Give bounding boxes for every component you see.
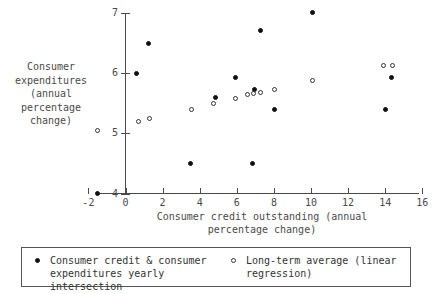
data-point-intersection: [272, 107, 277, 112]
data-point-intersection: [233, 75, 238, 80]
data-point-intersection: [310, 10, 315, 15]
data-point-intersection: [188, 161, 193, 166]
data-point-long-term-average: [95, 128, 100, 133]
data-point-long-term-average: [233, 96, 238, 101]
data-point-long-term-average: [251, 91, 256, 96]
data-point-long-term-average: [189, 107, 194, 112]
x-axis-tick: [200, 188, 201, 194]
data-point-intersection: [258, 28, 263, 33]
x-axis-title: Consumer credit outstanding (annualperce…: [112, 210, 412, 236]
legend-entry-long-term-average: Long-term average (linearregression): [246, 254, 406, 280]
data-point-intersection: [213, 95, 218, 100]
y-axis-tick: [121, 194, 130, 195]
x-axis-tick: [422, 188, 423, 194]
chart-page: -20246810121416 7654 Consumerexpenditure…: [0, 0, 434, 294]
data-point-intersection: [146, 41, 151, 46]
x-axis-tick-label: 0: [115, 197, 137, 208]
y-axis-tick-label: 5: [101, 127, 118, 138]
x-axis-tick-label: -2: [77, 197, 99, 208]
x-axis-tick-label: 2: [152, 197, 174, 208]
data-point-long-term-average: [136, 119, 141, 124]
x-axis-tick-label: 16: [411, 197, 433, 208]
x-axis-tick: [348, 188, 349, 194]
legend-marker-open-circle-icon: [231, 258, 236, 263]
y-axis-tick: [121, 13, 130, 14]
x-axis-tick: [385, 188, 386, 194]
legend-entry-consumer-credit: Consumer credit & consumerexpenditures y…: [50, 254, 240, 293]
x-axis-tick: [163, 188, 164, 194]
y-axis-tick-label: 7: [101, 7, 118, 18]
data-point-long-term-average: [390, 63, 395, 68]
x-axis-tick-label: 4: [189, 197, 211, 208]
x-axis-tick: [88, 188, 89, 194]
data-point-long-term-average: [310, 78, 315, 83]
x-axis-tick-label: 8: [263, 197, 285, 208]
y-axis-tick: [121, 133, 130, 134]
y-axis-tick: [121, 73, 130, 74]
data-point-long-term-average: [272, 87, 277, 92]
data-point-intersection: [250, 161, 255, 166]
data-point-intersection: [389, 75, 394, 80]
x-axis-tick-label: 14: [374, 197, 396, 208]
x-axis-tick-label: 10: [300, 197, 322, 208]
scatter-plot-area: -20246810121416 7654 Consumerexpenditure…: [0, 0, 434, 240]
data-point-long-term-average: [211, 101, 216, 106]
x-axis-tick-label: 12: [337, 197, 359, 208]
data-point-long-term-average: [245, 92, 250, 97]
data-point-intersection: [95, 191, 100, 196]
data-point-long-term-average: [258, 90, 263, 95]
data-point-long-term-average: [381, 63, 386, 68]
y-axis-tick-label: 6: [101, 67, 118, 78]
y-axis-title: Consumerexpenditures(annualpercentagecha…: [4, 60, 98, 128]
legend-marker-filled-circle-icon: [35, 258, 40, 263]
data-point-intersection: [383, 107, 388, 112]
y-axis-tick-label: 4: [101, 188, 118, 199]
data-point-intersection: [134, 71, 139, 76]
x-axis-tick: [237, 188, 238, 194]
x-axis-tick: [311, 188, 312, 194]
legend: Consumer credit & consumerexpenditures y…: [21, 247, 411, 287]
x-axis-tick: [274, 188, 275, 194]
x-axis-tick-label: 6: [226, 197, 248, 208]
y-axis-line: [125, 13, 126, 194]
x-axis-line: [99, 193, 419, 194]
data-point-long-term-average: [147, 116, 152, 121]
